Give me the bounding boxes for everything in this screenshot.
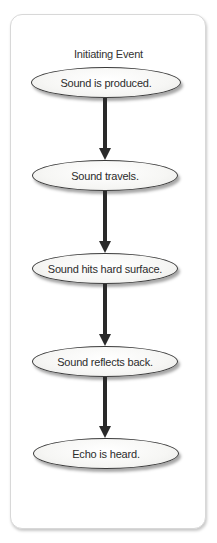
node-sound-produced: Sound is produced. [31, 67, 181, 98]
node-echo-heard: Echo is heard. [33, 438, 179, 469]
arrow-down-icon [99, 284, 111, 346]
arrow-down-icon [99, 191, 111, 253]
node-sound-reflects: Sound reflects back. [32, 346, 178, 377]
node-sound-hits-surface: Sound hits hard surface. [32, 253, 178, 284]
diagram-title: Initiating Event [0, 48, 217, 60]
arrow-down-icon [99, 98, 111, 160]
node-sound-travels: Sound travels. [32, 160, 178, 191]
arrow-down-icon [99, 377, 111, 438]
